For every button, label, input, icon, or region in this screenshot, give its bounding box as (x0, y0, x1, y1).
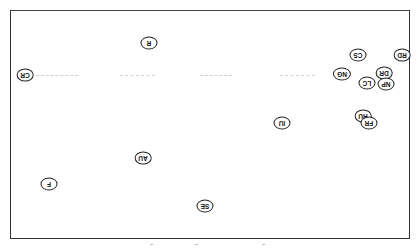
data-point-r: R (141, 37, 158, 50)
data-point-cr: CR (16, 69, 33, 82)
data-point-fr: FR (361, 117, 378, 130)
reference-line-segment (36, 75, 78, 76)
axis-tick (150, 244, 153, 245)
data-point-ng: NG (333, 68, 351, 81)
data-point-np: NP (377, 78, 394, 91)
axis-tick (195, 244, 198, 245)
data-point-iu: IU (274, 117, 291, 130)
reference-line-segment (120, 75, 155, 76)
data-point-se: SE (197, 200, 214, 213)
data-point-rd: RD (393, 49, 410, 62)
data-point-lc: LC (359, 77, 376, 90)
reference-line-segment (200, 75, 232, 76)
data-point-f: F (41, 178, 58, 191)
reference-line-segment (280, 75, 315, 76)
data-point-cs: CS (349, 49, 366, 62)
axis-tick (262, 244, 265, 245)
data-point-au: AU (134, 152, 151, 165)
